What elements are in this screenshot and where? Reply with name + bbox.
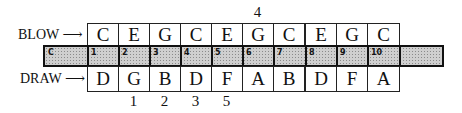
harmonica-comb-bar: C 1 2 3 4 5 6 7 8 9 10 — [43, 45, 444, 67]
hole-7: 7 — [273, 47, 275, 65]
draw-note-hole-3: B — [149, 66, 181, 92]
hole-6: 6 — [242, 47, 244, 65]
hole-8: 8 — [305, 47, 307, 65]
blow-note-hole-3: G — [149, 23, 181, 47]
draw-note-hole-4: D — [180, 66, 212, 92]
blow-note-hole-1: C — [87, 23, 119, 47]
blow-note-hole-7: C — [273, 23, 305, 47]
blow-note-hole-4: C — [180, 23, 212, 47]
draw-note-hole-6: A — [242, 66, 274, 92]
draw-label-text: DRAW — [20, 71, 61, 86]
blow-row-label: BLOW ⟶ — [18, 27, 83, 43]
bottom-marker-1: 1 — [118, 93, 149, 109]
draw-note-hole-9: F — [336, 66, 368, 92]
draw-note-hole-10: A — [367, 66, 400, 92]
blow-note-hole-8: E — [305, 23, 337, 47]
hole-2: 2 — [118, 47, 120, 65]
blow-note-hole-10: C — [367, 23, 400, 47]
blow-note-hole-5: E — [211, 23, 243, 47]
draw-row-label: DRAW ⟶ — [20, 71, 85, 87]
hole-5: 5 — [211, 47, 213, 65]
hole-10: 10 — [367, 47, 369, 65]
draw-note-hole-1: D — [87, 66, 119, 92]
right-arrow-icon: ⟶ — [62, 27, 82, 42]
comb-end — [399, 47, 401, 65]
bottom-marker-3: 3 — [180, 93, 211, 109]
blow-note-hole-2: E — [118, 23, 150, 47]
top-marker-4: 4 — [242, 4, 273, 20]
hole-3: 3 — [149, 47, 151, 65]
draw-note-hole-7: B — [273, 66, 305, 92]
comb-key-label: C — [48, 48, 54, 57]
blow-note-hole-6: G — [242, 23, 274, 47]
draw-note-hole-8: D — [305, 66, 337, 92]
draw-note-hole-2: G — [118, 66, 150, 92]
hole-4: 4 — [180, 47, 182, 65]
hole-1: 1 — [87, 47, 89, 65]
draw-note-hole-5: F — [211, 66, 243, 92]
right-arrow-icon: ⟶ — [65, 71, 85, 86]
blow-note-hole-9: G — [336, 23, 368, 47]
blow-label-text: BLOW — [18, 27, 59, 42]
hole-9: 9 — [336, 47, 338, 65]
bottom-marker-2: 2 — [149, 93, 180, 109]
bottom-marker-5: 5 — [211, 93, 242, 109]
